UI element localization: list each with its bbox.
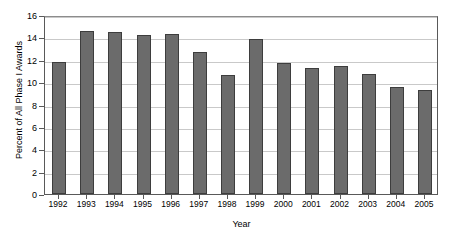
x-axis-tick-label: 1996 <box>161 199 180 209</box>
bar <box>193 52 207 194</box>
gridline <box>45 39 437 40</box>
bar <box>249 39 263 195</box>
bar <box>137 35 151 194</box>
y-axis-tick-label: 0 <box>7 190 37 200</box>
y-axis-tick <box>39 16 44 17</box>
y-axis-tick-label: 10 <box>7 78 37 88</box>
x-axis-title: Year <box>44 219 439 229</box>
x-axis-tick-label: 2003 <box>358 199 377 209</box>
x-axis-tick-label: 1995 <box>133 199 152 209</box>
bar <box>418 90 432 194</box>
bar <box>108 32 122 194</box>
bar <box>221 75 235 194</box>
y-axis-tick-label: 14 <box>7 33 37 43</box>
x-axis-tick-label: 2005 <box>414 199 433 209</box>
x-axis-tick-label: 2004 <box>386 199 405 209</box>
x-axis-tick-label: 1997 <box>189 199 208 209</box>
y-axis-tick <box>39 106 44 107</box>
y-axis-tick <box>39 195 44 196</box>
y-axis-tick-label: 16 <box>7 11 37 21</box>
gridline <box>45 84 437 85</box>
bar <box>390 87 404 194</box>
x-axis-tick-label: 1992 <box>49 199 68 209</box>
x-axis-tick-label: 2001 <box>302 199 321 209</box>
y-axis-tick <box>39 61 44 62</box>
y-axis-tick-label: 4 <box>7 145 37 155</box>
gridline <box>45 62 437 63</box>
bar <box>334 66 348 194</box>
gridline <box>45 17 437 18</box>
y-axis-tick-label: 6 <box>7 123 37 133</box>
bar <box>277 63 291 194</box>
y-axis-tick <box>39 128 44 129</box>
chart-figure: Percent of All Phase I Awards Year 02468… <box>0 0 451 235</box>
y-axis-tick-label: 12 <box>7 56 37 66</box>
x-axis-tick-label: 1993 <box>77 199 96 209</box>
y-axis-tick <box>39 38 44 39</box>
y-axis-tick <box>39 173 44 174</box>
gridline <box>45 151 437 152</box>
x-axis-tick-label: 2000 <box>274 199 293 209</box>
x-axis-tick-label: 2002 <box>330 199 349 209</box>
gridline <box>45 129 437 130</box>
y-axis-tick <box>39 150 44 151</box>
bar <box>52 62 66 194</box>
bar <box>80 31 94 194</box>
x-axis-tick-label: 1999 <box>246 199 265 209</box>
gridline <box>45 107 437 108</box>
gridline <box>45 174 437 175</box>
y-axis-tick <box>39 83 44 84</box>
x-axis-tick-label: 1998 <box>217 199 236 209</box>
bar <box>165 34 179 194</box>
y-axis-tick-label: 2 <box>7 168 37 178</box>
plot-area <box>44 16 438 195</box>
bar <box>305 68 319 194</box>
bar <box>362 74 376 194</box>
x-axis-tick-label: 1994 <box>105 199 124 209</box>
y-axis-tick-label: 8 <box>7 101 37 111</box>
